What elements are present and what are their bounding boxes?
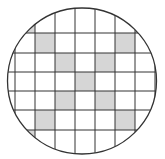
shaded-cell — [115, 110, 135, 130]
shaded-cell — [95, 53, 115, 72]
shaded-cell — [115, 33, 135, 53]
shaded-cell — [15, 8, 35, 33]
shaded-cells — [15, 8, 155, 154]
shaded-cell — [15, 130, 35, 154]
shaded-cell — [35, 110, 55, 130]
shaded-cell — [55, 91, 75, 110]
shaded-cell — [135, 8, 155, 33]
shaded-cell — [35, 33, 55, 53]
shaded-cell — [95, 91, 115, 110]
shaded-cell — [135, 130, 155, 154]
grid-circle-diagram — [0, 0, 165, 159]
shaded-cell — [75, 72, 95, 91]
shaded-cell — [55, 53, 75, 72]
